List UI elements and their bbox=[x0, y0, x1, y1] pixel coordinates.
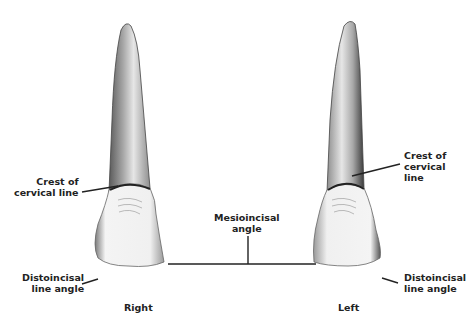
caption-left: Left bbox=[338, 302, 359, 313]
caption-right: Right bbox=[124, 302, 153, 313]
label-line: angle bbox=[214, 223, 280, 234]
label-distoincisal-line-angle-right-tooth: Distoincisal line angle bbox=[22, 272, 84, 294]
right-incisor bbox=[95, 24, 164, 267]
label-crest-cervical-line-left-tooth: Crest of cervical line bbox=[404, 150, 446, 183]
label-mesioincisal-angle: Mesioincisal angle bbox=[214, 212, 280, 234]
label-line: Crest of bbox=[14, 176, 79, 187]
left-incisor bbox=[314, 21, 381, 266]
tooth-diagram: Crest of cervical line Distoincisal line… bbox=[0, 0, 472, 326]
label-line: Distoincisal bbox=[22, 272, 84, 283]
label-line: line angle bbox=[22, 283, 84, 294]
label-line: Distoincisal bbox=[404, 272, 466, 283]
label-line: cervical line bbox=[14, 187, 79, 198]
label-line: line bbox=[404, 172, 446, 183]
label-distoincisal-line-angle-left-tooth: Distoincisal line angle bbox=[404, 272, 466, 294]
label-line: cervical bbox=[404, 161, 446, 172]
label-crest-cervical-line-right-tooth: Crest of cervical line bbox=[14, 176, 79, 198]
label-line: Mesioincisal bbox=[214, 212, 280, 223]
label-line: line angle bbox=[404, 283, 466, 294]
label-line: Crest of bbox=[404, 150, 446, 161]
